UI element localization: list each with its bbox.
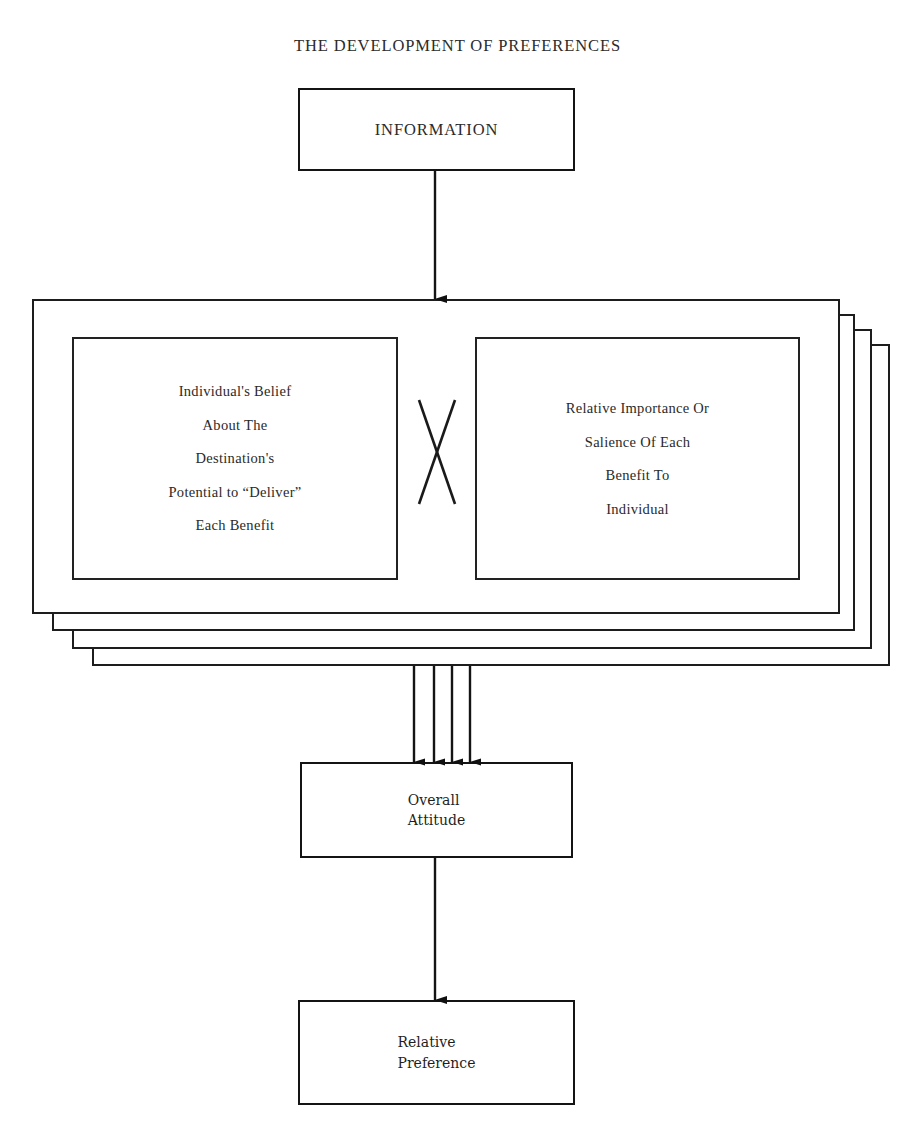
belief-line-2: About The [203,418,268,433]
belief-line-4: Potential to “Deliver” [168,485,301,500]
importance-line-3: Benefit To [605,468,669,483]
overall-attitude-node: Overall Attitude [300,762,573,858]
arrow-stack-to-attitude-group [414,666,470,762]
individual-belief-node: Individual's Belief About The Destinatio… [72,337,398,580]
information-node: INFORMATION [298,88,575,171]
relative-preference-line-2: Preference [398,1053,476,1073]
importance-line-1: Relative Importance Or [566,401,710,416]
benefit-layer-card-front: Individual's Belief About The Destinatio… [32,299,840,614]
belief-line-5: Each Benefit [196,518,275,533]
relative-importance-node: Relative Importance Or Salience Of Each … [475,337,800,580]
relative-preference-node: Relative Preference [298,1000,575,1105]
relative-preference-line-1: Relative [398,1032,476,1052]
overall-attitude-line-2: Attitude [408,810,465,830]
multiply-operator-icon: X [415,397,459,507]
overall-attitude-text: Overall Attitude [302,764,571,856]
belief-line-1: Individual's Belief [179,384,292,399]
information-label: INFORMATION [300,90,573,169]
diagram-canvas: THE DEVELOPMENT OF PREFERENCES INFORMATI… [0,0,915,1131]
relative-preference-text: Relative Preference [300,1002,573,1103]
belief-line-3: Destination's [195,451,274,466]
page-title: THE DEVELOPMENT OF PREFERENCES [0,36,915,56]
relative-importance-text: Relative Importance Or Salience Of Each … [477,339,798,578]
overall-attitude-line-1: Overall [408,790,465,810]
importance-line-2: Salience Of Each [585,435,690,450]
importance-line-4: Individual [606,502,669,517]
individual-belief-text: Individual's Belief About The Destinatio… [74,339,396,578]
